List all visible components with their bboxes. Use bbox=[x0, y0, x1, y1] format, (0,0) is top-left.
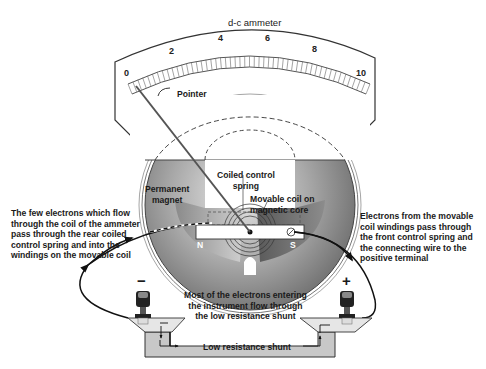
movable-coil-label: Movable coil on magnetic core bbox=[250, 194, 314, 215]
negative-sign: − bbox=[137, 273, 146, 288]
right-note: Electrons from the movable coil windings… bbox=[360, 211, 473, 264]
left-note: The few electrons which flow through the… bbox=[11, 208, 140, 261]
scale-tick-4: 4 bbox=[218, 33, 223, 43]
scale-tick-8: 8 bbox=[312, 44, 317, 54]
positive-sign: + bbox=[342, 273, 351, 288]
coiled-control-spring-label: Coiled control spring bbox=[217, 170, 275, 191]
pointer-label: Pointer bbox=[177, 89, 207, 100]
pole-south-label: S bbox=[290, 240, 296, 251]
scale-tick-10: 10 bbox=[356, 68, 366, 78]
shunt-label: Low resistance shunt bbox=[203, 342, 291, 353]
center-note: Most of the electrons entering the instr… bbox=[184, 290, 307, 322]
permanent-magnet-label: Permanent magnet bbox=[145, 184, 189, 205]
scale-tick-0: 0 bbox=[124, 68, 129, 78]
scale-tick-6: 6 bbox=[265, 33, 270, 43]
scale-tick-2: 2 bbox=[169, 46, 174, 56]
meter-title: d-c ammeter bbox=[228, 18, 281, 29]
pole-north-label: N bbox=[197, 240, 203, 251]
